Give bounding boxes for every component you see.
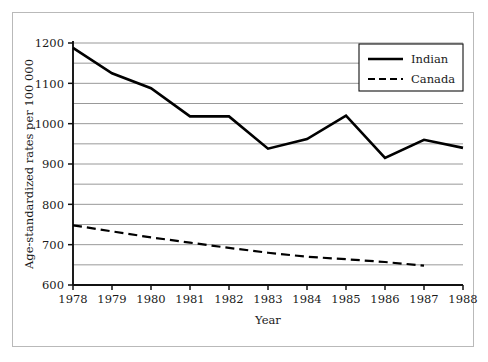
x-axis-tick-label: 1986: [370, 292, 399, 306]
x-axis-tick-label: 1982: [214, 292, 243, 306]
x-axis-tick-label: 1983: [253, 292, 282, 306]
legend-label-canada: Canada: [411, 72, 455, 86]
x-axis-tick-labels: 1978197919801981198219831984198519861987…: [58, 292, 477, 306]
y-axis-tick-label: 1200: [35, 36, 64, 50]
line-chart: 600700800900100011001200 197819791980198…: [0, 0, 488, 362]
y-axis-tick-label: 600: [42, 278, 64, 292]
x-axis-tick-label: 1985: [331, 292, 360, 306]
x-axis-tick-label: 1981: [175, 292, 204, 306]
x-axis-tick-label: 1987: [409, 292, 438, 306]
y-axis-title-text: Age-standardized rates per 100 000: [22, 59, 36, 270]
x-axis-title: Year: [254, 313, 281, 327]
series-line-canada: [73, 225, 424, 265]
figure-root: 600700800900100011001200 197819791980198…: [0, 0, 488, 362]
y-axis-tick-label: 1000: [35, 117, 64, 131]
x-axis-tick-label: 1980: [136, 292, 165, 306]
y-axis-tick-label: 700: [42, 238, 64, 252]
y-axis-title: Age-standardized rates per 100 000: [22, 59, 36, 270]
y-axis-tick-label: 800: [42, 198, 64, 212]
y-axis-tick-labels: 600700800900100011001200: [35, 36, 64, 292]
x-axis-title-text: Year: [254, 313, 281, 327]
legend-label-indian: Indian: [411, 52, 449, 66]
x-axis-tick-label: 1978: [58, 292, 87, 306]
y-axis-tick-label: 900: [42, 157, 64, 171]
x-axis-tick-label: 1984: [292, 292, 321, 306]
x-axis-tick-label: 1988: [448, 292, 477, 306]
x-axis-tick-label: 1979: [97, 292, 126, 306]
y-axis-tick-label: 1100: [35, 77, 64, 91]
legend: IndianCanada: [359, 44, 463, 91]
